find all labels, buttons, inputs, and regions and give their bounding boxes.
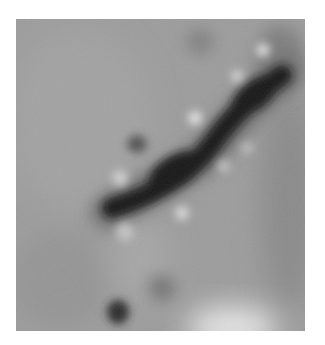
micrograph-svg — [16, 19, 305, 331]
micrograph-image — [16, 19, 305, 331]
